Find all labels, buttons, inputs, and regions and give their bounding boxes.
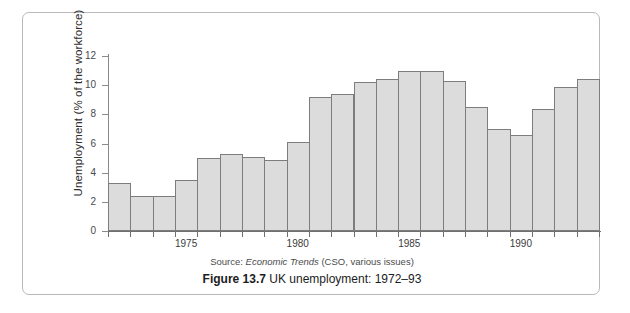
bar-1989: [487, 129, 510, 231]
bar-1984: [376, 79, 399, 231]
x-tick-16: [465, 232, 466, 237]
bar-1972: [108, 183, 131, 231]
bar-1990: [510, 135, 533, 231]
source-publication: Economic Trends: [246, 256, 319, 267]
x-tick-21: [577, 232, 578, 237]
x-tick-17: [487, 232, 488, 237]
figure-number: Figure 13.7: [203, 272, 266, 286]
x-tick-1: [130, 232, 131, 237]
y-tick-label-6: 6: [76, 139, 96, 149]
x-tick-20: [554, 232, 555, 237]
x-tick-15: [443, 232, 444, 237]
figure-frame: Unemployment (% of the workforce) 024681…: [22, 12, 600, 295]
bar-1992: [554, 87, 577, 231]
bar-1983: [354, 82, 377, 231]
bar-1982: [331, 94, 354, 231]
x-tick-9: [309, 232, 310, 237]
x-tick-label-1975: 1975: [166, 239, 206, 249]
x-tick-19: [532, 232, 533, 237]
source-suffix: (CSO, various issues): [321, 256, 413, 267]
x-tick-4: [197, 232, 198, 237]
source-line: Source: Economic Trends (CSO, various is…: [23, 256, 601, 267]
y-tick-label-0: 0: [76, 226, 96, 236]
x-tick-13: [398, 232, 399, 237]
x-tick-18: [510, 232, 511, 237]
x-tick-10: [331, 232, 332, 237]
y-tick-label-8: 8: [76, 109, 96, 119]
x-tick-3: [175, 232, 176, 237]
bar-1987: [443, 81, 466, 231]
y-tick-label-2: 2: [76, 197, 96, 207]
x-tick-6: [242, 232, 243, 237]
bar-1973: [130, 196, 153, 231]
bar-1978: [242, 157, 265, 231]
x-tick-11: [354, 232, 355, 237]
bar-1981: [309, 97, 332, 231]
figure-title: UK unemployment: 1972–93: [269, 272, 421, 286]
chart-plot-area: [108, 56, 599, 231]
source-prefix: Source:: [210, 256, 243, 267]
bar-1986: [420, 71, 443, 231]
x-tick-8: [287, 232, 288, 237]
y-tick-label-12: 12: [76, 51, 96, 61]
x-tick-label-1980: 1980: [278, 239, 318, 249]
y-tick-label-10: 10: [76, 80, 96, 90]
x-tick-5: [220, 232, 221, 237]
x-tick-0: [108, 232, 109, 237]
bar-1977: [220, 154, 243, 231]
bar-1979: [264, 160, 287, 231]
x-tick-label-1990: 1990: [501, 239, 541, 249]
bar-1991: [532, 109, 555, 232]
x-axis-line: [108, 231, 601, 232]
x-tick-14: [420, 232, 421, 237]
bar-1976: [197, 158, 220, 231]
bar-1975: [175, 180, 198, 231]
bar-1988: [465, 107, 488, 231]
x-tick-2: [153, 232, 154, 237]
x-tick-7: [264, 232, 265, 237]
x-tick-label-1985: 1985: [389, 239, 429, 249]
bar-1993: [577, 79, 600, 231]
bar-1980: [287, 142, 310, 231]
bar-1985: [398, 71, 421, 231]
bar-1974: [153, 196, 176, 231]
x-tick-22: [599, 232, 600, 237]
x-tick-12: [376, 232, 377, 237]
y-tick-label-4: 4: [76, 168, 96, 178]
figure-caption: Figure 13.7 UK unemployment: 1972–93: [23, 272, 601, 288]
